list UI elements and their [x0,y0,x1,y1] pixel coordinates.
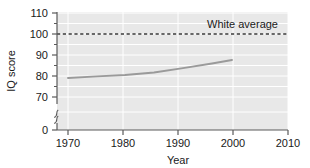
y-tick-label-80: 80 [36,70,48,82]
y-tick-label-110: 110 [30,7,48,19]
x-tick-label-1990: 1990 [166,137,190,149]
y-axis-major-ticks [52,13,57,130]
x-tick-label-2010: 2010 [276,137,300,149]
chart-canvas: 110 100 90 80 70 0 1970 1980 1990 2000 2… [0,0,310,168]
x-tick-label-2000: 2000 [221,137,245,149]
y-tick-label-90: 90 [36,49,48,61]
white-average-annotation: White average [207,18,278,30]
iq-score-line-chart: 110 100 90 80 70 0 1970 1980 1990 2000 2… [0,0,310,168]
x-tick-label-1970: 1970 [56,137,80,149]
x-tick-label-1980: 1980 [111,137,135,149]
y-axis-title: IQ score [5,50,17,92]
y-tick-label-70: 70 [36,91,48,103]
y-tick-label-0: 0 [42,124,48,136]
x-axis-title: Year [167,154,190,166]
x-axis-major-ticks [68,130,288,135]
y-tick-label-100: 100 [30,28,48,40]
